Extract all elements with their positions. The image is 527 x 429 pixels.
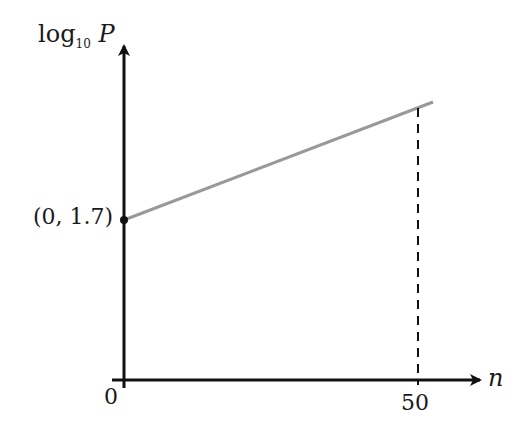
x-axis-label: n xyxy=(488,364,503,392)
x-tick-50: 50 xyxy=(401,390,429,415)
intercept-label: (0, 1.7) xyxy=(33,204,113,229)
origin-label: 0 xyxy=(104,384,118,409)
y-axis-label: log10 P xyxy=(38,20,115,51)
trend-line xyxy=(124,102,433,220)
intercept-point xyxy=(120,216,128,224)
